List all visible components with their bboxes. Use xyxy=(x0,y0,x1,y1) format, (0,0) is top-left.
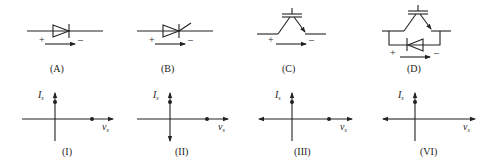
graph-ii: Is vs (II) xyxy=(137,89,228,158)
svg-text:+: + xyxy=(149,34,155,45)
graph-label-iii: (III) xyxy=(294,146,311,158)
gate-lead xyxy=(179,23,191,31)
graph-label-i: (I) xyxy=(62,146,72,158)
svg-text:–: – xyxy=(433,47,440,58)
circuit-c-igbt: + – (C) xyxy=(257,8,326,75)
switch-characteristics-diagram: + – (A) + – (B) + – (C) xyxy=(0,0,496,161)
svg-text:–: – xyxy=(77,34,84,45)
svg-text:–: – xyxy=(187,34,194,45)
graph-vi: Is vs (VI) xyxy=(383,89,475,158)
svg-text:vs: vs xyxy=(463,121,470,133)
svg-text:–: – xyxy=(308,34,315,45)
graph-iii: Is vs (III) xyxy=(259,89,352,158)
circuit-label-d: (D) xyxy=(407,63,421,75)
svg-text:Is: Is xyxy=(274,89,281,101)
svg-text:vs: vs xyxy=(340,121,347,133)
circuit-a-diode: + – (A) xyxy=(27,24,103,75)
svg-text:vs: vs xyxy=(102,121,109,133)
svg-text:+: + xyxy=(39,34,45,45)
svg-text:Is: Is xyxy=(37,89,44,101)
svg-text:+: + xyxy=(390,47,396,58)
circuit-label-a: (A) xyxy=(50,63,64,75)
svg-text:vs: vs xyxy=(218,121,225,133)
svg-text:Is: Is xyxy=(152,89,159,101)
circuit-label-b: (B) xyxy=(161,63,174,75)
graph-label-vi: (VI) xyxy=(420,146,437,158)
svg-text:Is: Is xyxy=(397,89,404,101)
graph-label-ii: (II) xyxy=(175,146,188,158)
graph-i: Is vs (I) xyxy=(22,89,113,158)
circuit-d-igbt-diode: + – (D) xyxy=(382,5,451,75)
circuit-label-c: (C) xyxy=(282,63,295,75)
svg-text:+: + xyxy=(268,34,274,45)
circuit-b-thyristor: + – (B) xyxy=(137,23,213,75)
